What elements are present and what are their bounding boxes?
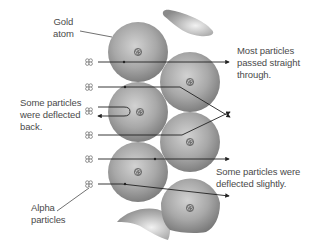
alpha-particle-icon [86, 181, 93, 188]
partial-atom-top [163, 10, 213, 36]
alpha-particle-icon [86, 84, 93, 91]
alpha-particle-icon [86, 59, 93, 66]
label-deflected-back: Some particles were deflected back. [20, 97, 81, 133]
gold-atom-3 [108, 82, 168, 142]
alpha-particle-icon [86, 132, 93, 139]
gold-atom-6 [161, 178, 220, 233]
label-passed-through: Most particles passed straight through. [237, 45, 300, 81]
gold-atom-5 [108, 142, 168, 202]
alpha-particles [86, 59, 93, 188]
gold-atom-leader [80, 31, 112, 37]
label-gold-atom: Gold atom [53, 16, 74, 40]
label-alpha-particles: Alpha particles [31, 202, 65, 226]
gold-atom-2 [160, 52, 220, 112]
gold-atom-1 [108, 22, 168, 82]
alpha-particle-icon [86, 156, 93, 163]
label-deflected-slightly: Some particles were deflected slightly. [216, 166, 300, 190]
alpha-particle-icon [86, 108, 93, 115]
